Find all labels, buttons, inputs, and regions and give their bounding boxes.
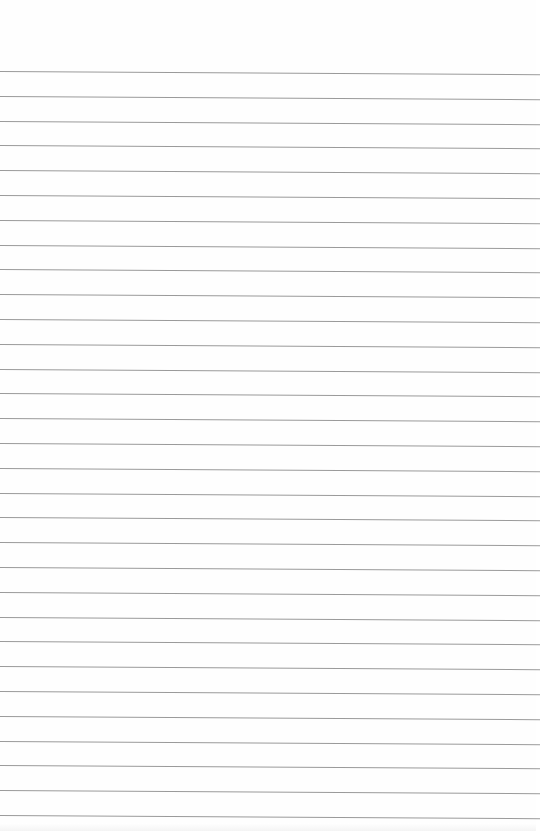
ruled-line	[0, 220, 540, 224]
ruled-line	[0, 617, 540, 621]
page-bottom-edge	[0, 823, 536, 831]
ruled-line	[0, 393, 540, 397]
ruled-line	[0, 691, 540, 695]
ruled-line	[0, 716, 540, 720]
ruled-line	[0, 369, 540, 373]
ruled-line	[0, 641, 540, 645]
ruled-line	[0, 493, 540, 497]
ruled-line	[0, 418, 540, 422]
ruled-line	[0, 344, 540, 348]
ruled-line	[0, 145, 540, 149]
ruled-line	[0, 666, 540, 670]
ruled-line	[0, 517, 540, 521]
ruled-line	[0, 71, 540, 75]
ruled-line	[0, 443, 540, 447]
ruled-line	[0, 741, 540, 745]
ruled-line	[0, 468, 540, 472]
ruled-line	[0, 195, 540, 199]
ruled-line	[0, 765, 540, 769]
ruled-line	[0, 245, 540, 249]
ruled-line	[0, 269, 540, 273]
ruled-line	[0, 815, 540, 819]
ruled-line	[0, 542, 540, 546]
ruled-line	[0, 170, 540, 174]
ruled-line	[0, 592, 540, 596]
ruled-line	[0, 790, 540, 794]
ruled-line	[0, 294, 540, 298]
ruled-line	[0, 96, 540, 100]
ruled-line	[0, 121, 540, 125]
ruled-line	[0, 567, 540, 571]
ruled-line	[0, 319, 540, 323]
